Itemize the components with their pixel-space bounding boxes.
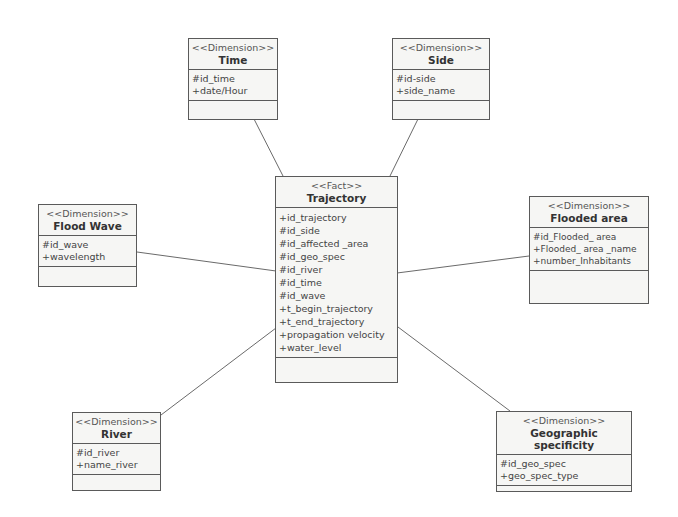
class-header: <<Fact>> Trajectory (276, 177, 397, 208)
attribute: #id_time (279, 276, 394, 289)
class-name: River (75, 428, 158, 440)
attribute: #id_wave (279, 289, 394, 302)
link-trajectory-side (390, 119, 418, 176)
attribute: +name_river (76, 459, 157, 471)
class-box-side[interactable]: <<Dimension>> Side #id-side +side_name (392, 38, 490, 120)
attribute: +propagation velocity (279, 328, 394, 341)
operations-compartment (530, 271, 648, 303)
attribute: #id_affected _area (279, 237, 394, 250)
attribute-list: #id_geo_spec +geo_spec_type (497, 455, 631, 486)
attribute: +side_name (396, 85, 486, 97)
class-name: Flood Wave (41, 220, 134, 232)
link-trajectory-river (161, 328, 276, 415)
operations-compartment (189, 101, 277, 119)
attribute: #id_side (279, 224, 394, 237)
class-name: Time (191, 54, 275, 66)
class-header: <<Dimension>> Flood Wave (39, 205, 136, 236)
attribute: +wavelength (42, 251, 133, 263)
class-name: Side (395, 54, 487, 66)
attribute-list: +id_trajectory #id_side #id_affected _ar… (276, 208, 397, 358)
attribute-list: #id-side +side_name (393, 70, 489, 101)
attribute: #id-side (396, 73, 486, 85)
attribute: #id_time (192, 73, 274, 85)
operations-compartment (276, 358, 397, 382)
class-box-river[interactable]: <<Dimension>> River #id_river +name_rive… (72, 412, 161, 491)
attribute: #id_wave (42, 239, 133, 251)
stereotype-label: <<Dimension>> (395, 42, 487, 54)
link-trajectory-geo-spec (398, 327, 510, 411)
stereotype-label: <<Dimension>> (75, 416, 158, 428)
attribute-list: #id_time +date/Hour (189, 70, 277, 101)
class-box-flooded-area[interactable]: <<Dimension>> Flooded area #id_Flooded_ … (529, 196, 649, 304)
operations-compartment (39, 267, 136, 286)
operations-compartment (73, 475, 160, 490)
operations-compartment (497, 486, 631, 492)
attribute: +water_level (279, 341, 394, 354)
class-header: <<Dimension>> Side (393, 39, 489, 70)
attribute: #id_geo_spec (500, 458, 628, 470)
class-box-geographic-specificity[interactable]: <<Dimension>> Geographic specificity #id… (496, 411, 632, 492)
attribute: +date/Hour (192, 85, 274, 97)
class-header: <<Dimension>> Flooded area (530, 197, 648, 228)
class-box-time[interactable]: <<Dimension>> Time #id_time +date/Hour (188, 38, 278, 120)
class-name: Trajectory (278, 192, 395, 204)
attribute-list: #id_Flooded_ area +Flooded_ area _name +… (530, 228, 648, 271)
attribute: #id_river (279, 263, 394, 276)
stereotype-label: <<Dimension>> (41, 208, 134, 220)
class-box-flood-wave[interactable]: <<Dimension>> Flood Wave #id_wave +wavel… (38, 204, 137, 287)
link-trajectory-time (254, 119, 283, 176)
attribute: #id_Flooded_ area (533, 231, 645, 243)
attribute: +id_trajectory (279, 211, 394, 224)
stereotype-label: <<Dimension>> (532, 200, 646, 212)
stereotype-label: <<Dimension>> (191, 42, 275, 54)
stereotype-label: <<Fact>> (278, 180, 395, 192)
attribute: #id_river (76, 447, 157, 459)
class-header: <<Dimension>> Time (189, 39, 277, 70)
link-trajectory-flooded-area (397, 256, 529, 273)
attribute: +t_begin_trajectory (279, 302, 394, 315)
link-trajectory-flood-wave (137, 252, 276, 271)
attribute: +geo_spec_type (500, 470, 628, 482)
attribute-list: #id_river +name_river (73, 444, 160, 475)
attribute-list: #id_wave +wavelength (39, 236, 136, 267)
attribute: +number_Inhabitants (533, 255, 645, 267)
class-name: Geographic specificity (499, 427, 629, 451)
attribute: +Flooded_ area _name (533, 243, 645, 255)
attribute: +t_end_trajectory (279, 315, 394, 328)
class-header: <<Dimension>> Geographic specificity (497, 412, 631, 455)
class-header: <<Dimension>> River (73, 413, 160, 444)
class-box-trajectory[interactable]: <<Fact>> Trajectory +id_trajectory #id_s… (275, 176, 398, 383)
operations-compartment (393, 101, 489, 119)
attribute: #id_geo_spec (279, 250, 394, 263)
class-name: Flooded area (532, 212, 646, 224)
stereotype-label: <<Dimension>> (499, 415, 629, 427)
